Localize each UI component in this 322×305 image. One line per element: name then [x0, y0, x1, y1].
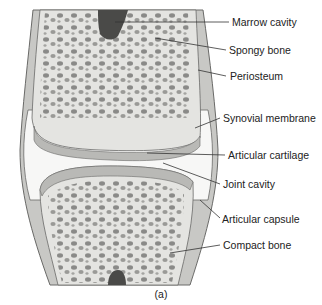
label-compact-bone: Compact bone [223, 239, 291, 251]
label-joint-cavity: Joint cavity [223, 178, 275, 190]
label-spongy-bone: Spongy bone [229, 44, 291, 56]
label-articular-capsule: Articular capsule [222, 213, 300, 225]
label-synovial-membrane: Synovial membrane [223, 112, 316, 124]
label-periosteum: Periosteum [230, 70, 283, 82]
label-marrow-cavity: Marrow cavity [232, 16, 297, 28]
figure-caption: (a) [0, 288, 322, 300]
label-articular-cartilage: Articular cartilage [228, 149, 309, 161]
lower-spongy-bone [48, 180, 184, 283]
